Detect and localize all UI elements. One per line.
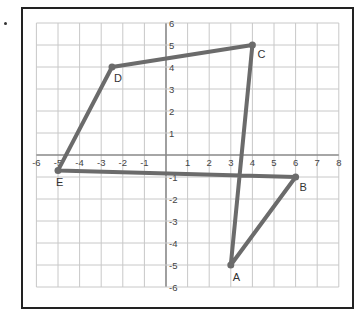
x-tick-label: 1	[185, 157, 190, 168]
x-tick-label: -2	[119, 157, 127, 168]
grid	[36, 23, 338, 287]
y-tick-label: 3	[169, 84, 174, 95]
point-e	[55, 167, 62, 174]
x-tick-label: -4	[75, 157, 83, 168]
point-d	[109, 64, 116, 71]
x-tick-label: -1	[140, 157, 148, 168]
point-c	[249, 42, 256, 49]
point-b	[292, 174, 299, 181]
y-tick-label: -4	[169, 238, 177, 249]
y-tick-label: 1	[169, 128, 174, 139]
coordinate-plane: -6-5-4-3-2-112345678654321-1-2-3-4-5-6AB…	[0, 0, 359, 315]
x-tick-label: 8	[336, 157, 341, 168]
x-tick-label: 2	[207, 157, 212, 168]
point-label-e: E	[56, 176, 63, 188]
point-label-d: D	[114, 72, 122, 84]
y-tick-label: -3	[169, 216, 177, 227]
x-tick-label: 5	[271, 157, 276, 168]
x-tick-label: 6	[293, 157, 298, 168]
y-tick-label: 5	[169, 40, 174, 51]
point-a	[227, 262, 234, 269]
x-tick-label: 7	[315, 157, 320, 168]
x-tick-label: 3	[228, 157, 233, 168]
x-tick-label: 4	[250, 157, 255, 168]
y-tick-label: 2	[169, 106, 174, 117]
x-tick-label: -3	[97, 157, 105, 168]
point-label-c: C	[257, 48, 265, 60]
x-tick-label: -6	[32, 157, 40, 168]
point-label-b: B	[300, 181, 307, 193]
y-tick-label: 4	[169, 62, 174, 73]
y-tick-label: -6	[169, 282, 177, 293]
y-tick-label: 6	[169, 18, 174, 29]
point-label-a: A	[233, 271, 241, 283]
y-tick-label: -2	[169, 194, 177, 205]
y-tick-label: -5	[169, 260, 177, 271]
